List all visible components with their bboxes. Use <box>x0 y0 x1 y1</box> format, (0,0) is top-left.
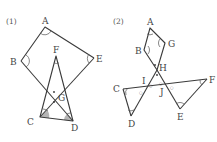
label-d: D <box>128 119 135 129</box>
figure-2-number: (2) <box>113 17 124 26</box>
geometry-figures: (1) A B E F G C D (2) <box>0 0 217 142</box>
angle-mark-dot <box>154 64 156 66</box>
angle-arc-d <box>67 113 71 114</box>
label-e: E <box>177 112 184 122</box>
label-b: B <box>10 57 17 67</box>
angle-arc-b <box>148 46 150 54</box>
angle-mark-circle: ○ <box>159 81 163 86</box>
angle-mark-dot <box>156 74 158 76</box>
angle-mark-dot <box>53 101 55 103</box>
label-i: I <box>142 76 146 86</box>
label-c: C <box>113 84 120 94</box>
angle-arc-e <box>87 54 89 63</box>
angle-mark-circle: ○ <box>149 83 153 88</box>
angle-arc-f <box>200 80 202 85</box>
figure-1-number: (1) <box>6 17 17 26</box>
segment-f-e <box>180 79 207 109</box>
label-g: G <box>168 39 175 49</box>
label-j: J <box>159 87 164 97</box>
label-e: E <box>96 54 103 64</box>
label-a: A <box>41 16 49 26</box>
figure-1: (1) A B E F G C D <box>6 16 103 133</box>
angle-mark-dot <box>53 91 55 93</box>
label-a: A <box>146 17 154 27</box>
angle-arc-d <box>128 110 134 111</box>
angle-mark-circle: ○ <box>170 85 174 90</box>
segment-c-f <box>123 79 207 89</box>
segment-c-d <box>123 89 131 116</box>
angle-arc-a <box>147 34 153 35</box>
label-b: B <box>135 46 142 56</box>
angle-arc-g <box>158 39 160 47</box>
figure-2: (2) ○ ○ ○ ○ A B G H I J C <box>113 17 215 129</box>
label-g: G <box>58 93 65 103</box>
angle-mark-circle: ○ <box>139 90 143 95</box>
label-h: H <box>159 63 167 73</box>
segment-b-a-e <box>21 27 94 61</box>
label-f: F <box>209 75 215 85</box>
label-f: F <box>53 45 59 55</box>
label-c: C <box>27 117 34 127</box>
angle-arc-b <box>26 55 29 67</box>
label-d: D <box>71 123 78 133</box>
